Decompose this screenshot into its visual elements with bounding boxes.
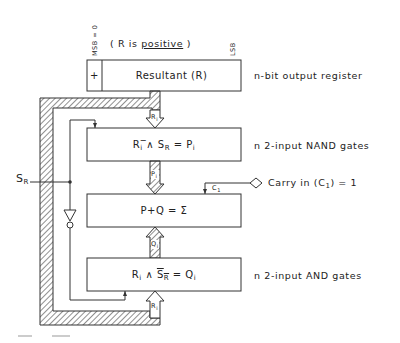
nand-description: n 2-input NAND gates <box>254 140 369 151</box>
register-title: Resultant (R) <box>102 70 241 81</box>
and-description: n 2-input AND gates <box>254 270 362 281</box>
carry-in-terminal-icon <box>250 178 262 188</box>
sr-label: SR <box>16 172 29 186</box>
bus-pi-label: Pi <box>151 170 158 179</box>
carry-label: C1 <box>212 184 221 193</box>
bus-ri-label-top: Ri <box>151 113 158 122</box>
bus-qi-label: Qi <box>151 240 159 249</box>
sign-note: ( R is positive ) <box>110 38 191 49</box>
diagram-canvas <box>0 0 400 343</box>
and-formula: Ri ∧ SR = Qi <box>87 269 241 282</box>
carry-in-text: Carry in (C1) = 1 <box>268 177 357 190</box>
msb-label: MSB = 0 <box>91 25 99 56</box>
inverter-icon <box>64 210 76 221</box>
nand-formula: Ri ̅∧ SR = Pi <box>87 139 241 152</box>
lsb-label: LSB <box>229 42 237 56</box>
sign-cell: + <box>87 70 102 81</box>
register-description: n-bit output register <box>254 70 362 81</box>
adder-formula: P+Q = Σ <box>87 205 241 216</box>
bus-ri-label-bottom: Ri <box>151 302 158 311</box>
